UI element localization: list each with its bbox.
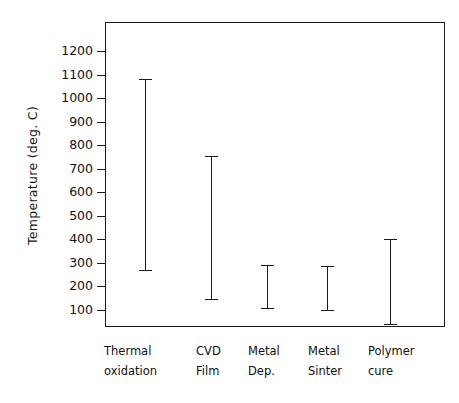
y-tick-mark: [97, 310, 106, 311]
y-tick-mark: [97, 192, 106, 193]
y-tick-label: 1200: [33, 45, 93, 57]
y-tick-label: 300: [33, 257, 93, 269]
range-cap-bottom: [384, 324, 397, 325]
y-tick-label: 700: [33, 163, 93, 175]
range-cap-bottom: [205, 299, 218, 300]
y-tick-label: 100: [33, 304, 93, 316]
plot-area: [105, 22, 445, 327]
category-label-line1: CVD: [196, 344, 221, 358]
y-tick-mark: [97, 75, 106, 76]
range-cap-top: [384, 239, 397, 240]
range-bar: [267, 265, 268, 307]
category-label-line1: Metal: [308, 344, 340, 358]
range-cap-top: [205, 156, 218, 157]
category-label-line1: Polymer: [368, 344, 415, 358]
range-cap-top: [321, 266, 334, 267]
range-cap-top: [139, 79, 152, 80]
y-tick-label: 1000: [33, 92, 93, 104]
category-label-line2: Film: [196, 361, 221, 381]
y-tick-label: 900: [33, 116, 93, 128]
y-tick-label: 500: [33, 210, 93, 222]
y-tick-label: 400: [33, 233, 93, 245]
y-tick-mark: [97, 239, 106, 240]
y-tick-mark: [97, 51, 106, 52]
category-label-line2: oxidation: [104, 361, 157, 381]
y-axis-title: Temperature (deg. C): [25, 76, 40, 276]
range-bar: [390, 239, 391, 324]
range-bar: [327, 266, 328, 310]
category-label: MetalDep.: [248, 341, 280, 381]
range-cap-bottom: [139, 270, 152, 271]
y-tick-mark: [97, 98, 106, 99]
range-bar: [211, 156, 212, 300]
range-cap-bottom: [321, 310, 334, 311]
y-tick-label: 200: [33, 280, 93, 292]
category-label-line2: cure: [368, 361, 415, 381]
category-label: Thermaloxidation: [104, 341, 157, 381]
category-label-line1: Metal: [248, 344, 280, 358]
range-cap-bottom: [261, 308, 274, 309]
y-tick-label: 600: [33, 186, 93, 198]
y-tick-mark: [97, 216, 106, 217]
y-tick-label: 1100: [33, 69, 93, 81]
category-label: MetalSinter: [308, 341, 342, 381]
category-label: Polymercure: [368, 341, 415, 381]
category-label-line2: Dep.: [248, 361, 280, 381]
range-bar: [145, 79, 146, 270]
y-tick-mark: [97, 169, 106, 170]
y-tick-label: 800: [33, 139, 93, 151]
category-label: CVDFilm: [196, 341, 221, 381]
y-tick-mark: [97, 286, 106, 287]
y-tick-mark: [97, 145, 106, 146]
category-label-line2: Sinter: [308, 361, 342, 381]
y-tick-mark: [97, 263, 106, 264]
range-chart: Temperature (deg. C) 1200110010009008007…: [0, 0, 459, 403]
y-tick-mark: [97, 122, 106, 123]
range-cap-top: [261, 265, 274, 266]
category-label-line1: Thermal: [104, 344, 151, 358]
